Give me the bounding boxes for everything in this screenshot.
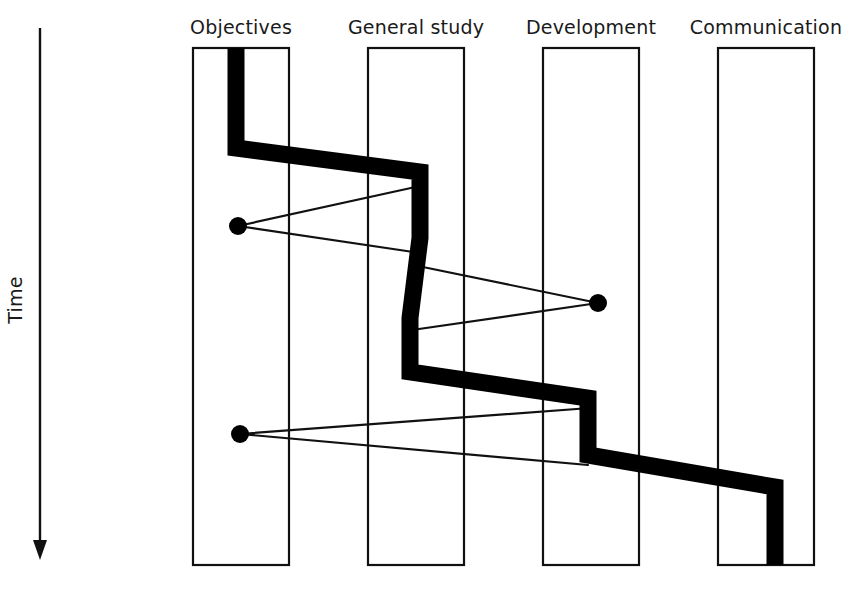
diagram-canvas: Time ObjectivesGeneral studyDevelopmentC…: [0, 0, 863, 590]
feedback-link-3: [418, 266, 598, 303]
time-axis: Time: [4, 28, 47, 560]
time-axis-label: Time: [4, 276, 26, 324]
iteration-node-objectives-lower: [231, 425, 249, 443]
column-label-development: Development: [526, 16, 656, 38]
feedback-link-2: [238, 226, 420, 253]
column-label-objectives: Objectives: [190, 16, 292, 38]
activity-lanes: [193, 48, 814, 565]
column-labels: ObjectivesGeneral studyDevelopmentCommun…: [190, 16, 842, 38]
feedback-link-5: [240, 408, 590, 434]
feedback-link-1: [238, 186, 420, 226]
column-label-communication: Communication: [690, 16, 842, 38]
iteration-node-development: [589, 294, 607, 312]
project-progress-path: [236, 48, 775, 565]
feedback-link-6: [240, 434, 588, 465]
feedback-link-4: [412, 303, 598, 330]
column-label-general-study: General study: [348, 16, 484, 38]
down-arrow-icon: [33, 540, 47, 560]
iteration-node-objectives-upper: [229, 217, 247, 235]
process-flow-diagram: Time ObjectivesGeneral studyDevelopmentC…: [0, 0, 863, 590]
